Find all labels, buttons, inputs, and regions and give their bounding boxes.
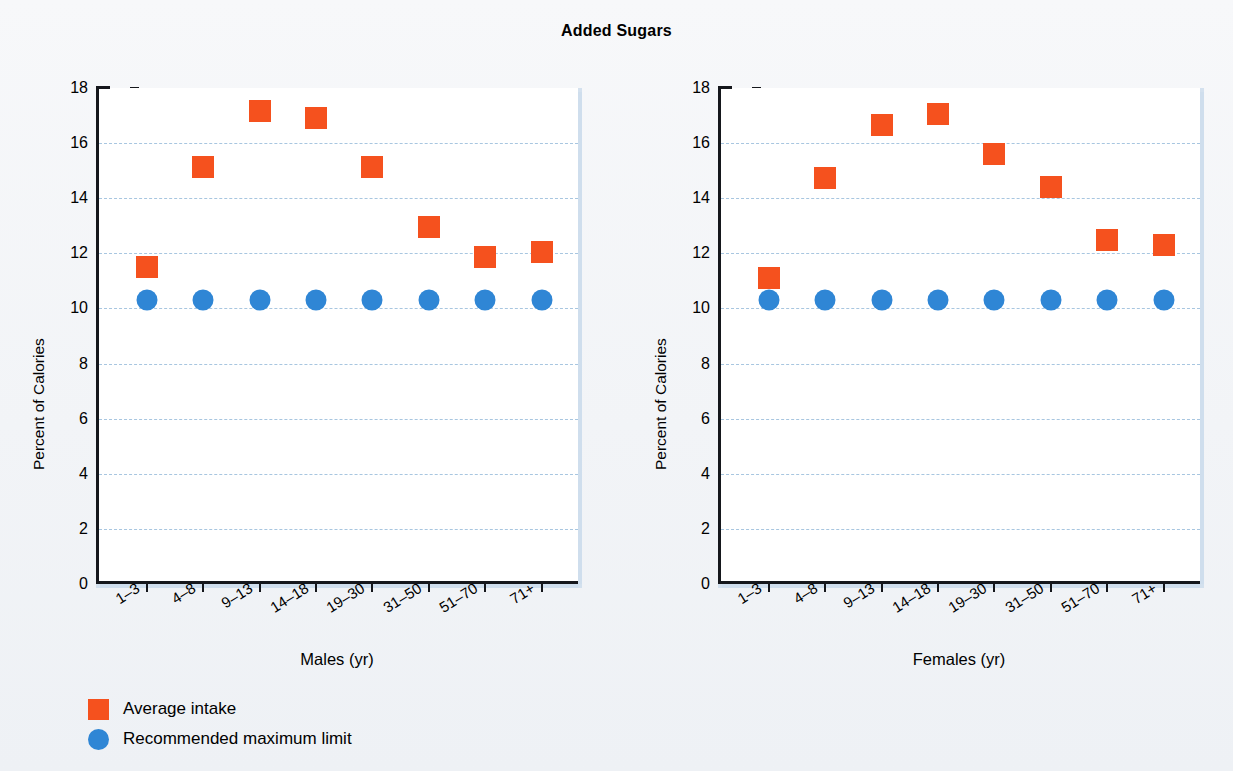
legend-circle-icon [88, 729, 109, 750]
y-tick-label: 12 [692, 244, 710, 262]
x-tick-mark [428, 581, 430, 592]
y-tick-label: 14 [70, 189, 88, 207]
gridline [99, 419, 578, 420]
data-point-marker [871, 114, 893, 136]
y-tick-label: 18 [692, 79, 710, 97]
gridline [721, 198, 1200, 199]
data-point-marker [927, 103, 949, 125]
gridline [99, 529, 578, 530]
x-tick-mark [824, 581, 826, 592]
gridline [721, 364, 1200, 365]
y-tick-label: 2 [701, 520, 710, 538]
x-tick-mark [1050, 581, 1052, 592]
x-tick-mark [1163, 581, 1165, 592]
gridline [99, 198, 578, 199]
gridline [99, 143, 578, 144]
x-tick-label: 31–50 [1002, 579, 1046, 616]
x-tick-mark [541, 581, 543, 592]
plot-area-females [718, 88, 1200, 584]
x-tick-mark [881, 581, 883, 592]
y-axis-ticks-females: 024681012141618 [664, 70, 710, 585]
x-tick-label: 14–18 [267, 579, 311, 616]
x-tick-label: 9–13 [218, 579, 255, 611]
gridline [721, 529, 1200, 530]
data-point-marker [306, 290, 327, 311]
y-tick-label: 16 [70, 134, 88, 152]
data-point-marker [531, 241, 553, 263]
x-axis-title-males: Males (yr) [96, 650, 578, 669]
legend-label: Average intake [123, 699, 236, 719]
data-point-marker [249, 100, 271, 122]
data-point-marker [249, 290, 270, 311]
y-tick-label: 0 [79, 575, 88, 593]
gridline [99, 474, 578, 475]
chart-page: Added Sugars Percent of Calories 0246810… [0, 0, 1233, 771]
x-tick-label: 19–30 [946, 579, 990, 616]
y-tick-label: 4 [79, 465, 88, 483]
y-tick-label: 4 [701, 465, 710, 483]
page-title: Added Sugars [0, 22, 1233, 40]
gridline [99, 253, 578, 254]
gridline [721, 419, 1200, 420]
data-point-marker [871, 290, 892, 311]
data-point-marker [193, 290, 214, 311]
data-point-marker [1097, 290, 1118, 311]
x-tick-label: 9–13 [840, 579, 877, 611]
data-point-marker [928, 290, 949, 311]
x-tick-label: 19–30 [324, 579, 368, 616]
y-tick-label: 8 [701, 355, 710, 373]
y-tick-label: 14 [692, 189, 710, 207]
data-point-marker [814, 167, 836, 189]
data-point-marker [362, 290, 383, 311]
legend-square-icon [88, 699, 109, 720]
x-tick-mark [371, 581, 373, 592]
data-point-marker [136, 256, 158, 278]
data-point-marker [475, 290, 496, 311]
x-tick-label: 51–70 [1058, 579, 1102, 616]
legend-label: Recommended maximum limit [123, 729, 352, 749]
data-point-marker [305, 107, 327, 129]
x-tick-mark [993, 581, 995, 592]
x-tick-mark [768, 581, 770, 592]
data-point-marker [815, 290, 836, 311]
y-tick-label: 10 [692, 299, 710, 317]
y-tick-label: 6 [701, 410, 710, 428]
y-tick-label: 0 [701, 575, 710, 593]
x-tick-mark [937, 581, 939, 592]
y-tick-label: 16 [692, 134, 710, 152]
y-tick-label: 8 [79, 355, 88, 373]
gridline [721, 253, 1200, 254]
data-point-marker [983, 143, 1005, 165]
x-tick-mark [202, 581, 204, 592]
data-point-marker [1040, 290, 1061, 311]
x-tick-mark [1106, 581, 1108, 592]
x-tick-mark [315, 581, 317, 592]
plot-inner-females [721, 88, 1200, 581]
data-point-marker [418, 290, 439, 311]
data-point-marker [1153, 234, 1175, 256]
y-tick-label: 12 [70, 244, 88, 262]
y-tick-label: 10 [70, 299, 88, 317]
data-point-marker [418, 216, 440, 238]
data-point-marker [758, 267, 780, 289]
y-tick-label: 18 [70, 79, 88, 97]
x-tick-mark [484, 581, 486, 592]
data-point-marker [531, 290, 552, 311]
gridline [721, 474, 1200, 475]
plot-inner-males [99, 88, 578, 581]
legend-item-recommended-maximum-limit: Recommended maximum limit [88, 724, 352, 754]
x-tick-mark [146, 581, 148, 592]
plot-area-males [96, 88, 578, 584]
y-axis-ticks-males: 024681012141618 [42, 70, 88, 585]
chart-legend: Average intake Recommended maximum limit [88, 694, 352, 754]
data-point-marker [1040, 176, 1062, 198]
data-point-marker [984, 290, 1005, 311]
gridline [99, 364, 578, 365]
legend-item-average-intake: Average intake [88, 694, 352, 724]
y-tick-label: 6 [79, 410, 88, 428]
x-tick-label: 14–18 [889, 579, 933, 616]
data-point-marker [136, 290, 157, 311]
data-point-marker [361, 156, 383, 178]
data-point-marker [758, 290, 779, 311]
gridline [721, 308, 1200, 309]
